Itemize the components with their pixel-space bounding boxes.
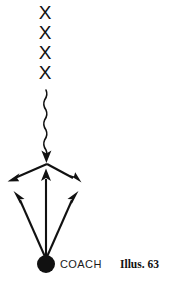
player-x-mark-4: X: [39, 62, 52, 83]
wavy-pass-line: [44, 90, 47, 156]
player-x-mark-1: X: [39, 2, 52, 23]
pass-path-wavy: [41, 90, 51, 163]
drill-diagram: X X X X: [0, 0, 174, 287]
player-x-mark-3: X: [39, 42, 52, 63]
apex-cut-right-line: [47, 164, 73, 178]
coach-label: COACH: [60, 258, 102, 270]
coach-right-line: [46, 200, 72, 259]
diagram-canvas: X X X X: [0, 0, 174, 287]
illustration-caption: Illus. 63: [120, 258, 159, 270]
coach-left-arrow: [14, 191, 47, 259]
coach-dot-icon: [37, 255, 55, 273]
coach-left-line: [20, 200, 46, 259]
player-x-group: X X X X: [39, 2, 52, 83]
coach-left-arrowhead: [14, 191, 25, 205]
coach-center-arrow: [41, 169, 51, 260]
apex-cut-left-line: [16, 164, 47, 178]
player-x-mark-2: X: [39, 22, 52, 43]
coach-right-arrowhead: [68, 191, 79, 205]
coach-right-arrow: [46, 191, 79, 259]
